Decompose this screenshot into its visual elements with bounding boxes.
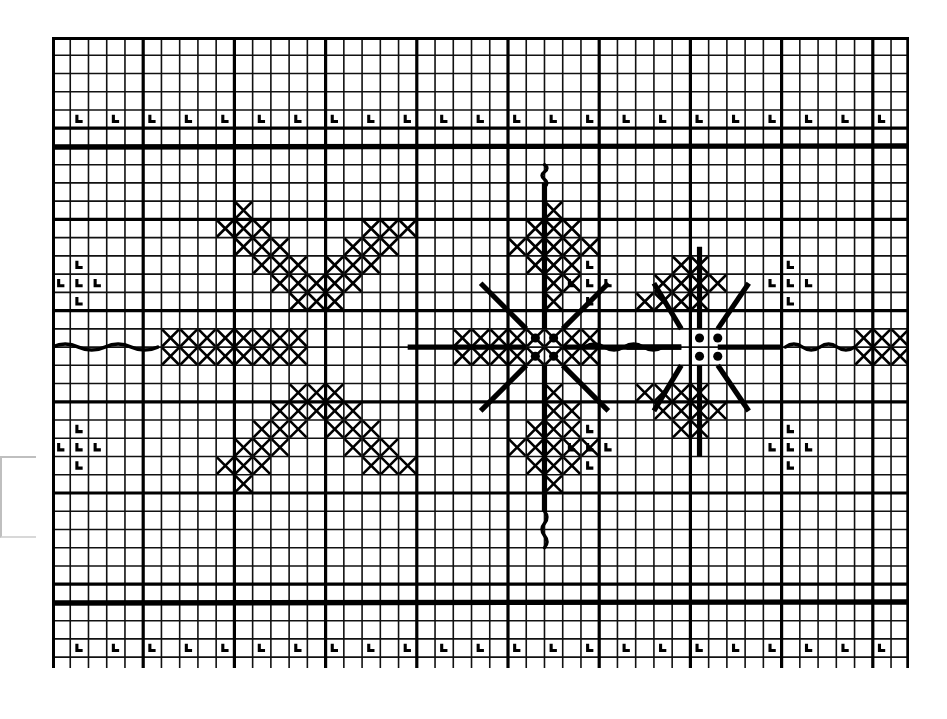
cross-stitch-chart (52, 37, 909, 668)
dot-symbol (695, 352, 704, 361)
dot-symbol (531, 333, 540, 342)
dot-symbol (713, 333, 722, 342)
dot-symbol (531, 352, 540, 361)
dot-symbol (713, 352, 722, 361)
dot-symbol (695, 333, 704, 342)
heavy-rule (52, 602, 909, 603)
heavy-rule (52, 146, 909, 147)
page-edge-artifact (0, 456, 36, 538)
dot-symbol (549, 333, 558, 342)
dot-symbol (549, 352, 558, 361)
chart-stage (0, 0, 947, 719)
chart-canvas (52, 37, 909, 668)
